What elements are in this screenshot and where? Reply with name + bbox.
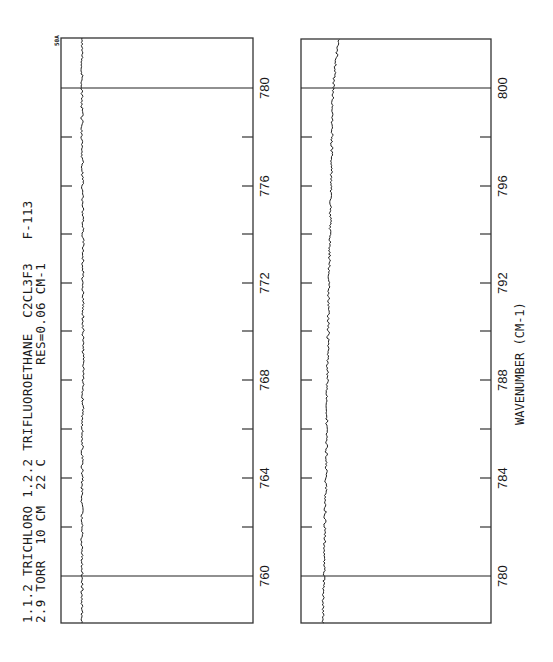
left-panel-frame — [61, 38, 253, 623]
chart-title-line2: 2.9 TORR 10 CM 22 C RES=0.06 CM-1 — [33, 263, 48, 623]
left-panel-spectrum-trace — [81, 38, 84, 623]
right-panel-spectrum-trace — [322, 40, 339, 624]
left-panel-tick-label: 768 — [257, 369, 272, 391]
left-panel-tick-label: 772 — [257, 272, 272, 294]
right-panel-frame — [301, 39, 491, 623]
right-panel-tick-label: 784 — [495, 467, 510, 489]
right-panel-tick-label: 792 — [495, 272, 510, 294]
plot-tag: 50A — [53, 35, 60, 46]
right-panel-tick-label: 796 — [495, 175, 510, 197]
right-panel-tick-label: 800 — [495, 77, 510, 99]
left-panel-tick-label: 780 — [257, 77, 272, 99]
plot-area — [0, 0, 553, 662]
spectrum-chart: 1.1.2 TRICHLORO 1.2.2 TRIFLUOROETHANE C2… — [0, 0, 553, 662]
left-panel-tick-label: 760 — [257, 565, 272, 587]
x-axis-label: WAVENUMBER (CM-1) — [513, 302, 527, 425]
left-panel-tick-label: 776 — [257, 175, 272, 197]
left-panel-tick-label: 764 — [257, 467, 272, 489]
right-panel-tick-label: 788 — [495, 369, 510, 391]
right-panel-tick-label: 780 — [495, 565, 510, 587]
